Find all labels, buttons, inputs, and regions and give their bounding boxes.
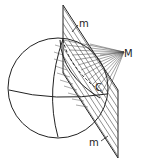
label-C: C [95,82,102,93]
meridian-line [53,39,63,137]
equator-line [9,90,107,97]
label-m-bottom: m [89,137,99,148]
label-m-top: m [79,18,89,29]
sphere [8,38,108,138]
sphere-plane-diagram: m M C m [0,0,142,167]
label-M: M [124,48,133,59]
